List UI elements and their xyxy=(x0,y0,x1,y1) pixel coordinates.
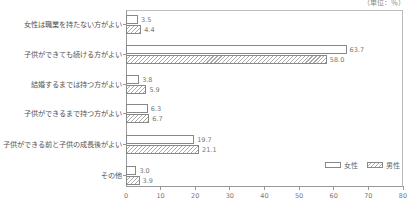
legend: 女性 男性 xyxy=(325,160,400,170)
category-label: 結婚するまでは持つ方がよい xyxy=(31,79,122,89)
category-label: 子供ができるまで持つ方がよい xyxy=(24,108,122,118)
value-label: 3.0 xyxy=(139,167,149,175)
x-tick xyxy=(403,186,404,190)
bar-male xyxy=(126,114,149,123)
bar-male xyxy=(126,55,327,64)
legend-swatch-female xyxy=(325,162,341,168)
x-tick-label: 40 xyxy=(260,192,268,200)
bar-male xyxy=(126,145,199,154)
x-tick xyxy=(229,186,230,190)
x-tick-label: 60 xyxy=(330,192,338,200)
value-label: 6.7 xyxy=(152,115,162,123)
bar-female xyxy=(126,135,194,144)
bar-male xyxy=(126,85,146,94)
legend-label-male: 男性 xyxy=(386,160,400,170)
value-label: 19.7 xyxy=(197,136,211,144)
bar-female xyxy=(126,104,148,113)
value-label: 3.5 xyxy=(141,16,151,24)
value-label: 63.7 xyxy=(350,46,364,54)
value-label: 6.3 xyxy=(151,105,161,113)
x-tick xyxy=(299,186,300,190)
value-label: 21.1 xyxy=(202,146,216,154)
bar-female xyxy=(126,75,139,84)
x-tick-label: 20 xyxy=(191,192,199,200)
x-tick-label: 80 xyxy=(399,192,407,200)
x-tick xyxy=(264,186,265,190)
x-tick-label: 30 xyxy=(226,192,234,200)
x-tick xyxy=(333,186,334,190)
x-tick-label: 10 xyxy=(156,192,164,200)
x-tick-label: 0 xyxy=(124,192,128,200)
category-label: 女性は職業を持たない方がよい xyxy=(24,19,122,29)
bar-male xyxy=(126,25,141,34)
x-tick-label: 50 xyxy=(295,192,303,200)
value-label: 58.0 xyxy=(330,56,344,64)
x-tick-label: 70 xyxy=(364,192,372,200)
category-label: 子供ができても続ける方がよい xyxy=(24,49,122,59)
value-label: 3.8 xyxy=(142,76,152,84)
unit-label: （単位：％） xyxy=(363,0,405,7)
x-tick xyxy=(195,186,196,190)
category-label: その他 xyxy=(101,170,122,180)
bar-male xyxy=(126,176,140,185)
x-tick xyxy=(160,186,161,190)
bar-female xyxy=(126,15,138,24)
value-label: 4.4 xyxy=(144,26,154,34)
value-label: 5.9 xyxy=(149,86,159,94)
bar-female xyxy=(126,166,136,175)
bar-female xyxy=(126,45,347,54)
legend-label-female: 女性 xyxy=(344,160,358,170)
x-tick xyxy=(368,186,369,190)
legend-swatch-male xyxy=(367,162,383,168)
category-label: 子供ができる前と子供の成長後がよい xyxy=(3,139,122,149)
value-label: 3.9 xyxy=(143,177,153,185)
